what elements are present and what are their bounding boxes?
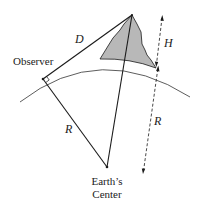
earth-surface-arc bbox=[20, 70, 190, 102]
earth-horizon-diagram: Observer D H R R Earth’s Center bbox=[0, 0, 199, 205]
radius-right-label: R bbox=[153, 114, 162, 128]
earth-center-label-line2: Center bbox=[92, 188, 122, 200]
distance-label: D bbox=[74, 32, 84, 46]
height-arrow-top-icon bbox=[160, 15, 163, 21]
radius-observer bbox=[43, 79, 107, 167]
earth-center-point bbox=[106, 166, 109, 169]
height-dimension-line bbox=[157, 18, 163, 64]
peak-point bbox=[131, 14, 133, 16]
observer-label: Observer bbox=[13, 55, 54, 67]
radius-arrow-bottom-icon bbox=[142, 168, 145, 174]
height-label: H bbox=[163, 36, 174, 50]
radius-left-label: R bbox=[64, 122, 73, 136]
observer-point bbox=[42, 78, 45, 81]
earth-center-label-line1: Earth’s bbox=[91, 175, 122, 187]
